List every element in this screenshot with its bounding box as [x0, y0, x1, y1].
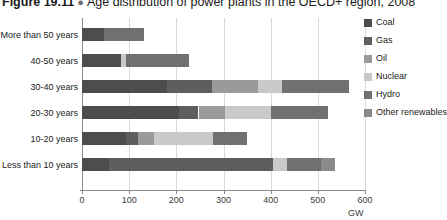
legend-label: Hydro: [376, 89, 400, 99]
x-tick-200: [176, 190, 177, 194]
legend-swatch-icon: [364, 19, 372, 27]
bar-segment-coal[interactable]: [82, 80, 167, 93]
legend-swatch-icon: [364, 91, 372, 99]
figure-caption: Age distribution of power plants in the …: [87, 0, 415, 9]
legend-label: Other renewables: [376, 107, 447, 117]
y-category-label: More than 50 years: [0, 30, 78, 40]
bar-segment-hydro[interactable]: [104, 28, 144, 41]
bar-segment-other-renewables[interactable]: [321, 158, 335, 171]
x-tick-label-600: 600: [358, 195, 373, 205]
y-category-label: Less than 10 years: [2, 160, 78, 170]
bar-segment-gas[interactable]: [109, 158, 273, 171]
figure-bullet-icon: ●: [74, 0, 87, 8]
bar-segment-hydro[interactable]: [213, 132, 246, 145]
x-tick-label-300: 300: [216, 195, 231, 205]
legend-label: Oil: [376, 53, 387, 63]
bar-segment-gas[interactable]: [179, 106, 198, 119]
legend-label: Gas: [376, 35, 393, 45]
x-tick-label-400: 400: [263, 195, 278, 205]
bar-segment-coal[interactable]: [82, 54, 121, 67]
bar-segment-nuclear[interactable]: [154, 132, 213, 145]
x-tick-label-200: 200: [169, 195, 184, 205]
x-tick-600: [365, 190, 366, 194]
bar-segment-hydro[interactable]: [271, 106, 329, 119]
bar-segment-hydro[interactable]: [282, 80, 349, 93]
y-category-label: 20-30 years: [30, 108, 78, 118]
figure-number: Figure 19.11: [2, 0, 74, 9]
bar-segment-hydro[interactable]: [126, 54, 189, 67]
legend-label: Nuclear: [376, 71, 407, 81]
legend-swatch-icon: [364, 37, 372, 45]
bar-segment-oil[interactable]: [138, 132, 155, 145]
x-tick-500: [318, 190, 319, 194]
legend-swatch-icon: [364, 109, 372, 117]
x-axis-line: [80, 190, 365, 191]
chart-plot-area: 0100200300400500600 More than 50 years40…: [0, 16, 444, 220]
bar-segment-hydro[interactable]: [287, 158, 321, 171]
x-axis-unit-label: GW: [348, 208, 364, 218]
bar-segment-coal[interactable]: [82, 158, 109, 171]
y-category-label: 30-40 years: [30, 82, 78, 92]
bar-segment-coal[interactable]: [82, 132, 126, 145]
legend-swatch-icon: [364, 55, 372, 63]
figure-title-bar: Figure 19.11●Age distribution of power p…: [0, 0, 444, 16]
bar-segment-nuclear[interactable]: [273, 158, 287, 171]
x-tick-label-500: 500: [310, 195, 325, 205]
bar-segment-oil[interactable]: [199, 106, 226, 119]
x-tick-100: [129, 190, 130, 194]
x-tick-0: [82, 190, 83, 194]
bar-segment-coal[interactable]: [82, 28, 104, 41]
y-category-label: 40-50 years: [30, 56, 78, 66]
bar-segment-nuclear[interactable]: [258, 80, 282, 93]
legend-swatch-icon: [364, 73, 372, 81]
bar-segment-coal[interactable]: [82, 106, 179, 119]
bar-segment-nuclear[interactable]: [225, 106, 270, 119]
x-tick-400: [271, 190, 272, 194]
bar-segment-oil[interactable]: [212, 80, 258, 93]
bar-segment-gas[interactable]: [167, 80, 212, 93]
x-tick-label-0: 0: [79, 195, 84, 205]
figure-title-inner: Figure 19.11●Age distribution of power p…: [2, 0, 415, 9]
x-tick-label-100: 100: [122, 195, 137, 205]
y-category-label: 10-20 years: [30, 134, 78, 144]
bar-segment-gas[interactable]: [126, 132, 137, 145]
legend-label: Coal: [376, 17, 395, 27]
x-tick-300: [224, 190, 225, 194]
